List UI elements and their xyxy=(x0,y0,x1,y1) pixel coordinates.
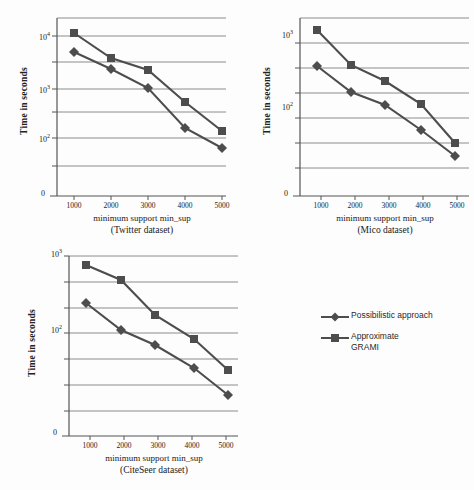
gridlines-citeseer xyxy=(69,256,238,411)
x-tick-citeseer-2: 3000 xyxy=(142,441,174,450)
x-axis-title-citeseer: minimum support min_sup xyxy=(68,453,240,463)
gridlines-twitter xyxy=(57,18,226,166)
x-tick-mico-1: 2000 xyxy=(339,201,371,210)
series-approximate-grami-mico xyxy=(313,26,459,147)
series-possibilistic-twitter xyxy=(69,47,227,153)
x-tick-twitter-0: 1000 xyxy=(58,201,90,210)
axes-mico xyxy=(293,18,469,200)
x-axis-title-mico: minimum support min_sup xyxy=(299,213,471,223)
axes-twitter xyxy=(50,18,226,200)
diamond-marker-icon xyxy=(320,311,350,323)
legend-item-possibilistic[interactable]: Possibilistic approach xyxy=(320,310,433,323)
x-tick-citeseer-0: 1000 xyxy=(74,441,106,450)
x-tick-twitter-1: 2000 xyxy=(95,201,127,210)
legend: Possibilistic approach Approximate GRAMI xyxy=(320,310,470,370)
square-marker-icon xyxy=(320,332,350,344)
x-axis-title-twitter: minimum support min_sup xyxy=(57,213,227,223)
chart-panel-twitter: Time in seconds 104 103 102 0 xyxy=(0,0,237,240)
x-tick-mico-4: 5000 xyxy=(441,201,473,210)
series-possibilistic-mico xyxy=(312,61,460,161)
caption-mico: (Mico dataset) xyxy=(299,225,471,235)
caption-citeseer: (CiteSeer dataset) xyxy=(68,465,240,475)
legend-item-approximate-grami[interactable]: Approximate GRAMI xyxy=(320,331,399,353)
x-tick-twitter-4: 5000 xyxy=(206,201,238,210)
x-tick-mico-3: 4000 xyxy=(407,201,439,210)
x-tick-mico-0: 1000 xyxy=(305,201,337,210)
chart-panel-citeseer: Time in seconds 103 102 0 xyxy=(0,240,250,490)
x-tick-mico-2: 3000 xyxy=(373,201,405,210)
legend-label-approximate-grami: Approximate GRAMI xyxy=(350,331,399,353)
figure-container: Time in seconds 104 103 102 0 xyxy=(0,0,474,490)
x-tick-citeseer-3: 4000 xyxy=(176,441,208,450)
gridlines-mico xyxy=(300,18,469,168)
plot-area-twitter xyxy=(0,0,237,210)
x-tick-citeseer-1: 2000 xyxy=(108,441,140,450)
chart-panel-mico: Time in seconds 103 102 0 xyxy=(237,0,474,240)
x-tick-twitter-3: 4000 xyxy=(169,201,201,210)
plot-area-citeseer xyxy=(0,240,250,450)
axes-citeseer xyxy=(62,256,238,440)
plot-area-mico xyxy=(237,0,474,210)
x-tick-citeseer-4: 5000 xyxy=(210,441,242,450)
x-tick-twitter-2: 3000 xyxy=(132,201,164,210)
caption-twitter: (Twitter dataset) xyxy=(57,225,227,235)
series-approximate-grami-twitter xyxy=(70,29,226,135)
legend-label-possibilistic: Possibilistic approach xyxy=(350,310,433,321)
